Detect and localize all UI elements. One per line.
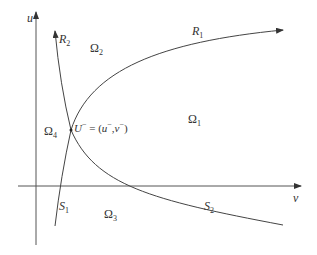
u-axis-label: u xyxy=(27,12,33,24)
u-minus-eq: = ( xyxy=(86,122,101,134)
u-minus-close: ) xyxy=(124,122,128,134)
s1-label-sub: 1 xyxy=(65,206,69,215)
s2-label: S2 xyxy=(204,200,214,215)
omega1-name: Ω xyxy=(188,112,197,126)
u-minus-point xyxy=(70,129,73,132)
r1-label: R1 xyxy=(192,25,203,40)
v-axis-label: v xyxy=(293,192,298,204)
s2-label-sub: 2 xyxy=(210,206,214,215)
r2-label: R2 xyxy=(59,33,70,48)
wave-curve-diagram: u v R2 R1 S1 S2 Ω2 Ω1 Ω4 Ω3 U− = (u−,v−) xyxy=(0,0,317,255)
u-minus-name: U xyxy=(74,122,82,134)
omega2-name: Ω xyxy=(90,41,99,55)
region-omega4-label: Ω4 xyxy=(44,125,57,140)
omega3-name: Ω xyxy=(104,207,113,221)
r1-label-sub: 1 xyxy=(199,31,203,40)
region-omega3-label: Ω3 xyxy=(104,208,117,223)
omega1-sub: 1 xyxy=(197,119,201,128)
omega4-sub: 4 xyxy=(53,131,57,140)
r2-label-sub: 2 xyxy=(66,39,70,48)
omega4-name: Ω xyxy=(44,124,53,138)
region-omega1-label: Ω1 xyxy=(188,113,201,128)
s1-label: S1 xyxy=(59,200,69,215)
region-omega2-label: Ω2 xyxy=(90,42,103,57)
omega2-sub: 2 xyxy=(99,48,103,57)
u-minus-label: U− = (u−,v−) xyxy=(74,121,128,134)
omega3-sub: 3 xyxy=(113,214,117,223)
s2-curve xyxy=(71,130,283,225)
